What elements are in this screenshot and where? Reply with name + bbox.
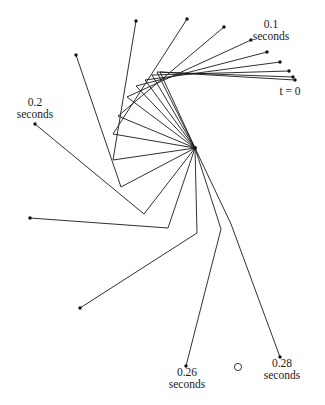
label-0.28-value: 0.28 [272, 357, 292, 369]
pendulum-bob [287, 69, 290, 72]
pendulum-bob [78, 306, 81, 309]
pendulum-bob [278, 60, 281, 63]
label-0.26-value: 0.26 [177, 366, 197, 378]
double-pendulum-diagram: 0.1 seconds t = 0 0.2 seconds 0.26 secon… [0, 0, 325, 405]
pendulum-bob [291, 75, 294, 78]
pendulum-bob [28, 216, 31, 219]
pendulum-bob [33, 122, 36, 125]
open-circle-marker [234, 363, 241, 370]
label-t0: t = 0 [279, 85, 300, 97]
pendulum-bob [185, 17, 188, 20]
label-0.1-value: 0.1 [264, 18, 279, 30]
pendulum-arm-snapshot [80, 148, 197, 308]
pendulum-arm-snapshot [195, 148, 280, 357]
pivot-point [193, 146, 197, 150]
pendulum-arm-snapshot [152, 71, 289, 148]
pendulum-arm-snapshot [186, 148, 221, 366]
pendulum-bob [222, 25, 225, 28]
pendulum-figure: 0.1 seconds t = 0 0.2 seconds 0.26 secon… [0, 0, 325, 405]
pendulum-bob [134, 19, 137, 22]
pendulum-bob [265, 50, 268, 53]
label-0.28-unit: seconds [264, 369, 301, 381]
pendulum-bob [74, 53, 77, 56]
label-0.2-unit: seconds [17, 108, 54, 120]
label-0.1-unit: seconds [253, 30, 290, 42]
label-0.2-value: 0.2 [28, 96, 43, 108]
label-0.26-unit: seconds [169, 378, 206, 390]
pendulum-bob [293, 78, 296, 81]
pendulum-arms [28, 17, 296, 367]
pendulum-arm-snapshot [76, 55, 195, 187]
